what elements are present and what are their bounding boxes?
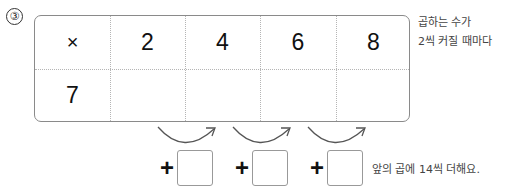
header-cell: 6 [260,16,336,69]
header-cell: 8 [336,16,411,69]
curved-arrow-icon [229,123,295,149]
side-note-line: 2씩 커질 때마다 [418,32,492,51]
multiplication-table: × 2 4 6 8 7 [34,15,410,122]
increment-answer-box[interactable] [177,150,213,186]
increment-group: + [235,150,288,186]
increment-answer-box[interactable] [327,150,363,186]
curved-arrow-icon [304,123,370,149]
problem-number: ③ [6,8,23,25]
side-note-line: 곱하는 수가 [418,13,492,32]
header-cell: 2 [110,16,185,69]
increment-group: + [160,150,213,186]
operator-cell: × [35,16,110,69]
curved-arrow-icon [154,123,220,149]
answer-cell[interactable] [185,69,260,122]
plus-sign: + [310,156,324,180]
side-note: 곱하는 수가 2씩 커질 때마다 [418,13,492,51]
plus-sign: + [235,156,249,180]
answer-cell[interactable] [260,69,336,122]
row-label-cell: 7 [35,69,110,122]
plus-sign: + [160,156,174,180]
answer-cell[interactable] [110,69,185,122]
increment-group: + [310,150,363,186]
answer-cell[interactable] [336,69,411,122]
header-cell: 4 [185,16,260,69]
increment-answer-box[interactable] [252,150,288,186]
bottom-note: 앞의 곱에 14씩 더해요. [372,160,480,176]
